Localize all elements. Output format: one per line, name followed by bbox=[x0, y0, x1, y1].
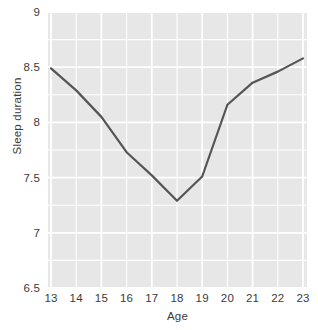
sleep-duration-by-age-chart: 6.577.588.59 Sleep duration 131415161718… bbox=[0, 0, 318, 330]
sleep-duration-line-series bbox=[48, 12, 307, 288]
y-axis-title: Sleep duration bbox=[11, 61, 23, 171]
plot-area bbox=[48, 12, 307, 288]
x-axis-tick-labels: 1314151617181920212223 bbox=[0, 292, 318, 308]
y-axis-tick-label: 8 bbox=[33, 116, 40, 128]
x-axis-tick-label: 22 bbox=[271, 292, 284, 304]
x-axis-tick-label: 23 bbox=[296, 292, 309, 304]
y-axis-tick-label: 7 bbox=[33, 227, 40, 239]
x-axis-tick-label: 13 bbox=[44, 292, 57, 304]
x-axis-tick-label: 19 bbox=[196, 292, 209, 304]
y-axis-tick-label: 7.5 bbox=[23, 172, 40, 184]
x-axis-tick-label: 20 bbox=[221, 292, 234, 304]
x-axis-tick-label: 18 bbox=[170, 292, 183, 304]
x-axis-tick-label: 14 bbox=[70, 292, 83, 304]
x-axis-tick-label: 15 bbox=[95, 292, 108, 304]
x-axis-title: Age bbox=[48, 310, 307, 322]
x-axis-tick-label: 17 bbox=[145, 292, 158, 304]
x-axis-tick-label: 16 bbox=[120, 292, 133, 304]
data-line bbox=[51, 58, 303, 200]
y-axis-tick-label: 8.5 bbox=[23, 61, 40, 73]
x-axis-tick-label: 21 bbox=[246, 292, 259, 304]
y-axis-tick-label: 9 bbox=[33, 6, 40, 18]
